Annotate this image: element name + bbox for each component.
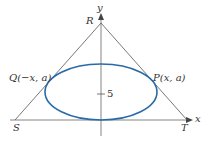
y-axis-label: y [96, 2, 103, 13]
vertex-label-t: T [181, 122, 189, 133]
vertex-label-r: R [85, 15, 94, 26]
y-tick-label-5: 5 [107, 88, 113, 99]
diagram-canvas: x y 5 R S T Q(−x, a) P(x, a) [0, 0, 209, 141]
point-label-p: P(x, a) [152, 72, 186, 83]
y-axis-arrow-icon [98, 13, 104, 20]
vertex-label-s: S [13, 122, 20, 133]
point-label-q: Q(−x, a) [9, 72, 51, 83]
x-axis-label: x [195, 113, 201, 124]
